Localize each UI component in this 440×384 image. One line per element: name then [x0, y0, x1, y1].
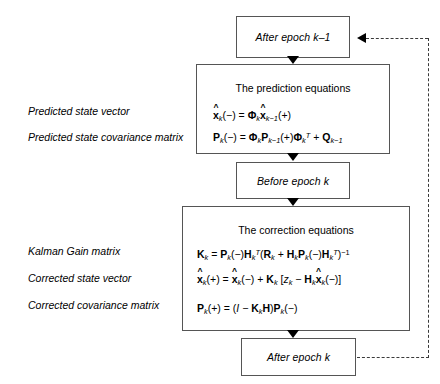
kalman-filter-flowchart: Predicted state vector Predicted state c… [0, 0, 440, 384]
arrow-down-icon-to-after-epoch [287, 330, 299, 338]
correction-equation-gain: Kk = Pk(−)HkT(Rk + HkPk(−)HkT)−1 [197, 248, 350, 262]
node-after-epoch-k[interactable]: After epoch k [241, 338, 356, 376]
node-after-epoch-k-label: After epoch k [267, 351, 330, 363]
label-corrected-state-vector: Corrected state vector [28, 272, 131, 284]
feedback-connector-top-segment [366, 38, 428, 39]
node-after-epoch-k-minus-1-label: After epoch k–1 [255, 31, 330, 43]
node-after-epoch-k-minus-1[interactable]: After epoch k–1 [236, 16, 350, 58]
label-corrected-covariance-matrix: Corrected covariance matrix [28, 299, 159, 311]
correction-equation-state: ^xk(+) = ^xk(−) + Kk [zk − Hk^xk(−)] [197, 273, 341, 287]
node-before-epoch-k-label: Before epoch k [257, 175, 329, 187]
arrow-down-icon-to-prediction [287, 56, 299, 64]
correction-equations-title: The correction equations [183, 224, 409, 236]
correction-equation-covariance: Pk(+) = (I − KkH)Pk(−) [197, 302, 297, 316]
prediction-equation-covariance: Pk(−) = ΦkPk−1(+)ΦkT + Qk−1 [213, 131, 343, 145]
prediction-equations-title: The prediction equations [197, 82, 389, 94]
arrow-left-icon-feedback [357, 33, 366, 43]
node-prediction-equations[interactable]: The prediction equations ^xk(−) = Φk^xk−… [196, 64, 390, 154]
feedback-connector-bottom-segment [357, 357, 429, 358]
arrow-down-icon-to-before-epoch [287, 153, 299, 161]
feedback-connector-right-segment [428, 38, 429, 358]
node-before-epoch-k[interactable]: Before epoch k [236, 162, 350, 199]
node-correction-equations[interactable]: The correction equations Kk = Pk(−)HkT(R… [182, 206, 410, 331]
prediction-equation-state: ^xk(−) = Φk^xk−1(+) [213, 109, 291, 123]
arrow-down-icon-to-correction [287, 198, 299, 206]
label-predicted-state-covariance-matrix: Predicted state covariance matrix [28, 131, 183, 143]
label-kalman-gain-matrix: Kalman Gain matrix [28, 245, 120, 257]
label-predicted-state-vector: Predicted state vector [28, 105, 130, 117]
